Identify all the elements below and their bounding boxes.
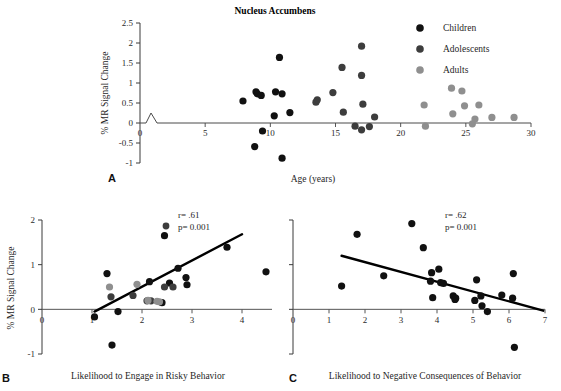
data-point [471,115,478,122]
data-point [458,87,465,94]
panel-c-axes [289,220,545,354]
panel-b-svg: -1012 01234 r= .61 p= 0.001 Likelihood t… [0,196,283,391]
b-yticks-0: -1 [28,349,36,359]
panel-a-data-points [239,43,517,162]
data-point [340,109,347,116]
c-xticks-7: 7 [543,315,548,325]
data-point [314,96,321,103]
data-point [475,101,482,108]
data-point [461,102,468,109]
data-point [488,114,495,121]
data-point [498,291,505,298]
data-point [428,269,435,276]
b-yticks-2: 1 [31,260,36,270]
data-point [161,283,168,290]
data-point [371,113,378,120]
legend-label-children: Children [443,23,476,33]
data-point [169,283,176,290]
panel-b-y-tick-labels: -1012 [28,215,36,359]
data-point [380,272,387,279]
panel-b-trend-line [95,234,243,311]
c-xticks-4: 4 [435,315,440,325]
panel-a-age-scatter: Nucleus Accumbens -1-0.500.511.522.5 051… [0,0,561,196]
data-point [338,64,345,71]
panel-c-p-value: p= 0.001 [445,222,477,232]
data-point [286,109,293,116]
a-yticks-6: 2 [129,38,134,48]
data-point [258,92,265,99]
panel-b-r-value: r= .61 [178,210,200,220]
data-point [161,232,168,239]
data-point [272,88,279,95]
data-point [108,341,115,348]
data-point [477,292,484,299]
a-xticks-5: 25 [461,128,471,138]
data-point [182,274,189,281]
panel-c-svg: 01234567 r= .62 p= 0.001 Likelihood to N… [283,196,561,391]
data-point [156,298,163,305]
legend-marker-adults [416,66,424,74]
panel-letter-a: A [108,172,116,184]
data-point [114,308,121,315]
a-yticks-2: 0 [129,118,134,128]
data-point [278,155,285,162]
a-xticks-1: 5 [203,128,208,138]
data-point [271,112,278,119]
data-point [510,114,517,121]
data-point [351,123,358,130]
panel-c-r-value: r= .62 [445,210,467,220]
data-point [427,278,434,285]
panel-c-x-tick-labels: 01234567 [291,315,548,325]
data-point [251,143,258,150]
c-xticks-3: 3 [399,315,404,325]
data-point [129,292,136,299]
data-point [473,276,480,283]
data-point [510,270,517,277]
a-xticks-3: 15 [331,128,341,138]
data-point [435,266,442,273]
panel-a-title: Nucleus Accumbens [234,6,315,16]
data-point [259,127,266,134]
panel-c-negative-consequences-scatter: 01234567 r= .62 p= 0.001 Likelihood to N… [283,196,561,391]
data-point [353,231,360,238]
panel-b-x-tick-labels: 01234 [40,315,245,325]
data-point [484,308,491,315]
data-point [478,302,485,309]
data-point [511,344,518,351]
data-point [107,293,114,300]
b-xticks-4: 4 [240,315,245,325]
data-point [106,283,113,290]
data-point [440,280,447,287]
data-point [408,220,415,227]
data-point [358,126,365,133]
data-point [183,281,190,288]
legend-label-adults: Adults [443,65,469,75]
legend-marker-adolescents [416,45,424,53]
c-xticks-6: 6 [507,315,512,325]
data-point [239,97,246,104]
a-yticks-3: 0.5 [122,98,134,108]
b-yticks-3: 2 [31,215,36,225]
data-point [262,268,269,275]
data-point [223,244,230,251]
figure-nucleus-accumbens: Nucleus Accumbens -1-0.500.511.522.5 051… [0,0,561,391]
data-point [449,110,456,117]
panel-a-y-axis-title: % MR Signal Change [100,51,110,134]
data-point [329,89,336,96]
b-yticks-1: 0 [31,305,36,315]
data-point [359,101,366,108]
a-yticks-1: -0.5 [119,138,134,148]
panel-a-svg: Nucleus Accumbens -1-0.500.511.522.5 051… [0,0,561,196]
data-point [366,123,373,130]
legend-label-adolescents: Adolescents [443,44,490,54]
a-yticks-5: 1.5 [122,58,134,68]
data-point [358,72,365,79]
a-xticks-4: 20 [396,128,406,138]
a-yticks-7: 2.5 [122,18,134,28]
data-point [471,297,478,304]
a-xticks-2: 10 [266,128,276,138]
legend-marker-children [416,24,424,32]
panel-a-x-axis-title: Age (years) [291,174,336,185]
panel-a-y-tick-labels: -1-0.500.511.522.5 [119,18,134,168]
a-yticks-0: -1 [126,158,134,168]
